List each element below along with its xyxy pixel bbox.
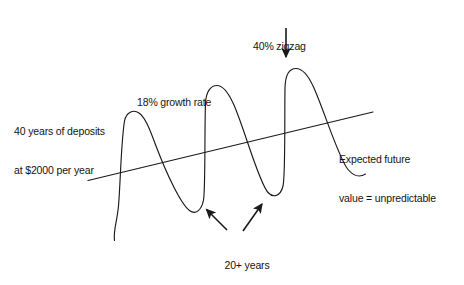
- recovery-label-line-1: 20+ years: [195, 259, 299, 272]
- deposits-label-line-2: at $2000 per year: [14, 164, 105, 177]
- arrow-up-right-icon: [243, 204, 262, 231]
- arrow-up-left-icon: [207, 210, 228, 231]
- deposits-label-line-1: 40 years of deposits: [14, 125, 105, 138]
- expected-value-label-line-1: Expected future: [339, 153, 436, 166]
- growth-rate-label: 18% growth rate: [137, 70, 211, 135]
- deposits-label: 40 years of deposits at $2000 per year: [14, 99, 105, 203]
- growth-rate-label-line-1: 18% growth rate: [137, 96, 211, 109]
- zigzag-label-line-1: 40% zigzag: [253, 40, 306, 53]
- expected-value-label: Expected future value = unpredictable: [339, 127, 436, 231]
- zigzag-label: 40% zigzag: [253, 14, 306, 79]
- recovery-label: 20+ years to recover from a down market: [195, 233, 299, 285]
- diagram-canvas: 40 years of deposits at $2000 per year 1…: [0, 0, 464, 285]
- trend-line: [88, 112, 373, 181]
- expected-value-label-line-2: value = unpredictable: [339, 192, 436, 205]
